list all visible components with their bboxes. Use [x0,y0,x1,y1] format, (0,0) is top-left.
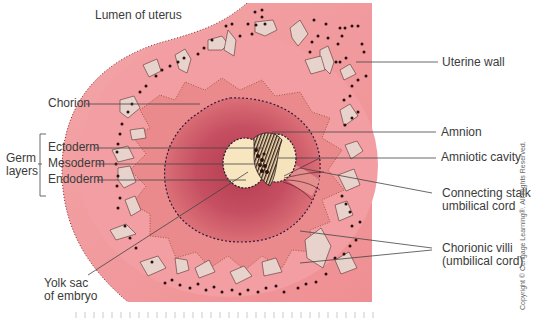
label-amniotic-cavity: Amniotic cavity [441,151,521,164]
label-amnion: Amnion [441,126,482,139]
label-connecting-stalk: Connecting stalk umbilical cord [442,187,531,213]
clipped-caption [75,307,375,318]
copyright-notice: Copyright © Cengage Learning®. All Right… [519,141,526,310]
label-yolk-sac: Yolk sac of embryo [44,277,97,303]
label-uterine-wall: Uterine wall [442,56,505,69]
label-germ-layers: Germ layers [6,152,38,178]
label-endoderm: Endoderm [48,173,103,186]
label-lumen-of-uterus: Lumen of uterus [95,9,182,22]
label-chorionic-villi: Chorionic villi (umbilical cord) [442,242,523,268]
label-chorion: Chorion [48,97,90,110]
label-mesoderm: Mesoderm [48,157,105,170]
label-ectoderm: Ectoderm [48,141,99,154]
